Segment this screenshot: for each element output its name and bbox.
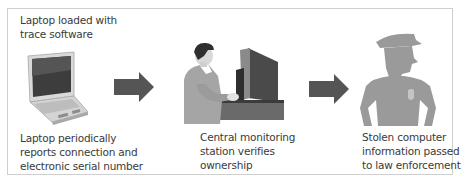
arrow-right-icon: [309, 74, 351, 104]
monitoring-bottom-caption: Central monitoring station verifies owne…: [200, 130, 295, 172]
police-officer-icon: [356, 28, 440, 126]
arrow-right-icon: [114, 72, 156, 102]
laptop-top-caption: Laptop loaded with trace software: [20, 13, 117, 41]
police-bottom-caption: Stolen computer information passed to la…: [362, 130, 461, 172]
laptop-bottom-caption: Laptop periodically reports connection a…: [20, 131, 143, 173]
monitoring-operator-icon: [178, 40, 286, 124]
laptop-icon: [22, 50, 92, 125]
